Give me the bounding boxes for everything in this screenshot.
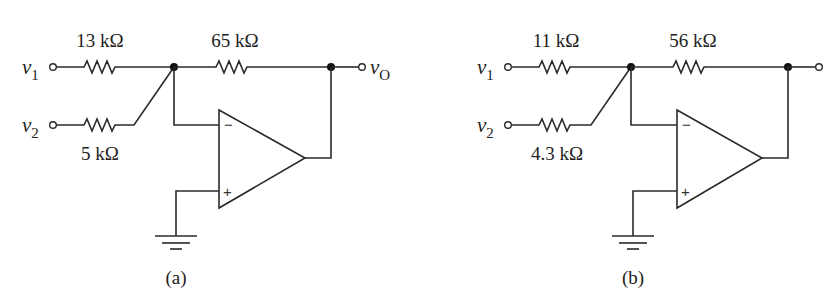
- output-terminal: [359, 64, 366, 71]
- opamp-plus-sign: +: [223, 183, 232, 200]
- circuit-figure: v1 13 kΩ v2 5 kΩ 65 kΩ vO − +: [0, 0, 828, 307]
- input-v1-terminal: [50, 64, 57, 71]
- input-v1-terminal: [505, 64, 512, 71]
- output-feedback-wire: [305, 67, 331, 158]
- ground-icon: [155, 236, 197, 249]
- input-v2-terminal: [505, 122, 512, 129]
- resistor-r1-label: 11 kΩ: [533, 30, 580, 51]
- inverting-input-wire: [631, 67, 677, 125]
- input-v1-label: v1: [22, 55, 39, 83]
- circuit-a: v1 13 kΩ v2 5 kΩ 65 kΩ vO − +: [22, 30, 390, 289]
- resistor-rf-label: 65 kΩ: [211, 30, 258, 51]
- input-v2-terminal: [50, 122, 57, 129]
- resistor-r2-label: 4.3 kΩ: [531, 143, 583, 164]
- inverting-input-wire: [174, 67, 219, 125]
- opamp-plus-sign: +: [681, 183, 690, 200]
- resistor-rf-label: 56 kΩ: [669, 30, 716, 51]
- caption-a: (a): [165, 267, 186, 289]
- resistor-r2: [511, 67, 631, 131]
- resistor-r1-label: 13 kΩ: [76, 30, 123, 51]
- resistor-r1: [511, 61, 631, 73]
- output-vo-label: vO: [370, 55, 390, 83]
- resistor-r2-label: 5 kΩ: [81, 143, 119, 164]
- caption-b: (b): [622, 267, 644, 289]
- opamp-minus-sign: −: [682, 116, 691, 133]
- noninverting-input-wire: [633, 191, 677, 236]
- input-v2-label: v2: [22, 113, 39, 141]
- opamp-minus-sign: −: [224, 116, 233, 133]
- resistor-rf: [174, 61, 331, 73]
- resistor-r1: [56, 61, 174, 73]
- input-v2-label: v2: [477, 113, 494, 141]
- circuit-b: v1 11 kΩ v2 4.3 kΩ 56 kΩ − + (b): [477, 30, 822, 289]
- noninverting-input-wire: [176, 191, 219, 236]
- input-v1-label: v1: [477, 55, 494, 83]
- resistor-r2: [56, 67, 174, 131]
- resistor-rf: [631, 61, 788, 73]
- ground-icon: [612, 236, 654, 249]
- output-feedback-wire: [762, 67, 788, 158]
- output-terminal: [816, 64, 823, 71]
